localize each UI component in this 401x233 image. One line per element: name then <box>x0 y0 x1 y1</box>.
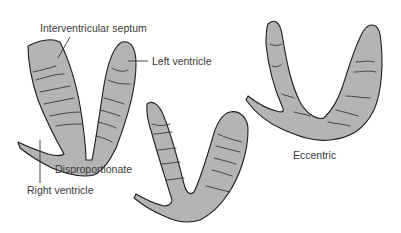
eccentric-caption: Eccentric <box>293 150 336 161</box>
disproportionate-septum <box>18 40 136 176</box>
disproportionate-heart-section <box>18 37 148 183</box>
left-ventricle-label: Left ventricle <box>152 56 212 67</box>
right-ventricle-label: Right ventricle <box>27 185 94 196</box>
interventricular-septum-label: Interventricular septum <box>40 23 147 34</box>
eccentric-ventricle-shape <box>246 21 382 140</box>
disproportionate-caption: Disproportionate <box>55 164 132 175</box>
eccentric-heart-section <box>246 21 382 140</box>
middle-heart-section <box>134 102 248 222</box>
ventricle-diagram <box>0 0 401 233</box>
